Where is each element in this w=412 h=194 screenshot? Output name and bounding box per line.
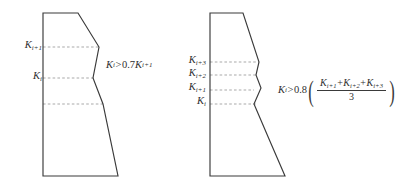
formula-coefficient: 0.8 <box>294 85 307 96</box>
right-panel-group <box>210 13 285 176</box>
formula-rhs-subscript: i+1 <box>142 62 152 69</box>
label-subscript: i <box>40 75 42 82</box>
right-level-label-k-i-plus-3: Ki+3 <box>172 55 206 67</box>
left-panel-group <box>43 13 118 176</box>
right-level-label-k-i-plus-1: Ki+1 <box>172 82 206 94</box>
right-level-label-k-i-plus-2: Ki+2 <box>172 68 206 80</box>
formula-rhs-base: K <box>135 60 142 71</box>
left-wall-outline <box>43 13 118 176</box>
numer-term-3-subscript: i+3 <box>373 82 383 89</box>
formula-fraction: Ki+1+Ki+2+Ki+3 3 <box>317 78 386 102</box>
numer-term-2-subscript: i+2 <box>350 82 360 89</box>
left-level-label-k-i: Ki <box>8 71 42 83</box>
numer-term-1-subscript: i+1 <box>327 82 337 89</box>
label-subscript: i+3 <box>196 59 206 66</box>
left-level-label-k-i-plus-1: Ki+1 <box>8 40 42 52</box>
formula-close-paren: ) <box>389 79 395 102</box>
figure-root: Ki+1 Ki Ki>0.7Ki+1 Ki+3 Ki+2 Ki+1 Ki Ki>… <box>0 0 412 194</box>
fraction-denominator: 3 <box>346 91 357 102</box>
right-wall-outline <box>210 13 285 176</box>
label-base: K <box>25 39 32 50</box>
label-subscript: i+2 <box>196 72 206 79</box>
label-subscript: i+1 <box>196 86 206 93</box>
left-panel-formula: Ki>0.7Ki+1 <box>106 60 152 71</box>
numer-term-2-base: K <box>343 77 350 88</box>
formula-operator: > <box>115 60 122 71</box>
formula-open-paren: ( <box>308 79 314 102</box>
label-subscript: i <box>204 100 206 107</box>
label-base: K <box>189 81 196 92</box>
label-base: K <box>189 54 196 65</box>
formula-operator: > <box>287 85 294 96</box>
right-level-label-k-i: Ki <box>172 96 206 108</box>
fraction-numerator: Ki+1+Ki+2+Ki+3 <box>317 78 386 90</box>
label-base: K <box>197 95 204 106</box>
label-base: K <box>189 67 196 78</box>
formula-lhs-base: K <box>278 85 285 96</box>
numer-term-1-base: K <box>320 77 327 88</box>
formula-lhs-base: K <box>106 60 113 71</box>
label-subscript: i+1 <box>32 44 42 51</box>
formula-coefficient: 0.7 <box>122 60 135 71</box>
numer-plus-2: + <box>360 77 367 88</box>
label-base: K <box>33 70 40 81</box>
right-panel-formula: Ki>0.8( Ki+1+Ki+2+Ki+3 3 ) <box>278 78 396 102</box>
